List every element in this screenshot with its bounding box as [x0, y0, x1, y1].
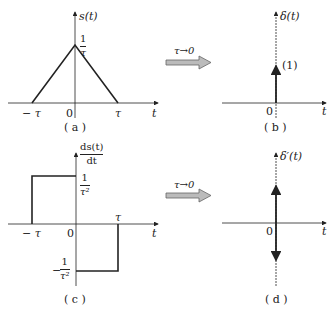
panel-c-neg-level: 1 τ²: [60, 257, 70, 281]
ylabel-denominator: dt: [86, 156, 96, 167]
panel-b-graph: [222, 12, 326, 118]
panel-a-tick-tau: τ: [115, 108, 121, 119]
peak-denominator: τ: [80, 48, 86, 59]
panel-c-tick-zero: 0: [67, 228, 74, 239]
panel-a-graph: [8, 12, 158, 118]
panel-c-tick-neg-tau: − τ: [22, 228, 41, 239]
panel-d-ylabel: δ′(t): [280, 151, 302, 162]
panel-c-tick-tau: τ: [115, 212, 121, 223]
panel-b-impulse-weight: (1): [282, 60, 298, 71]
panel-c-pos-level: 1 τ²: [80, 173, 90, 197]
limit-label-bottom: τ→0: [174, 180, 194, 190]
panel-d-graph: [222, 153, 326, 286]
panel-c-ylabel: ds(t) dt: [80, 142, 103, 166]
panel-a-caption: ( a ): [64, 121, 86, 134]
panel-a-peak-value: 1 τ: [80, 34, 86, 58]
derivative-pulse: [32, 176, 76, 224]
panel-b-caption: ( b ): [264, 121, 287, 134]
peak-numerator: 1: [80, 34, 86, 45]
pos-level-denominator: τ²: [80, 187, 90, 198]
panel-d-caption: ( d ): [265, 293, 288, 306]
panel-a-tick-zero: 0: [66, 108, 73, 119]
limit-arrow-bottom-icon: [166, 189, 211, 202]
panel-d-tick-zero: 0: [266, 226, 273, 237]
ylabel-numerator: ds(t): [80, 142, 103, 153]
limit-arrow-top-icon: [166, 56, 211, 69]
neg-level-denominator: τ²: [60, 271, 70, 282]
pos-level-numerator: 1: [82, 173, 88, 184]
panel-d-xlabel: t: [322, 226, 326, 237]
limit-label-top: τ→0: [174, 46, 194, 56]
derivative-pulse-neg: [76, 224, 118, 271]
panel-a-tick-neg-tau: − τ: [22, 108, 41, 119]
panel-b-xlabel: t: [322, 106, 326, 117]
panel-b-tick-zero: 0: [266, 106, 273, 117]
panel-a-ylabel: s(t): [79, 11, 98, 22]
neg-level-numerator: 1: [62, 257, 68, 268]
panel-a-xlabel: t: [152, 108, 156, 119]
panel-c-caption: ( c ): [64, 293, 86, 306]
panel-b-ylabel: δ(t): [280, 11, 300, 22]
panel-c-xlabel: t: [152, 228, 156, 239]
